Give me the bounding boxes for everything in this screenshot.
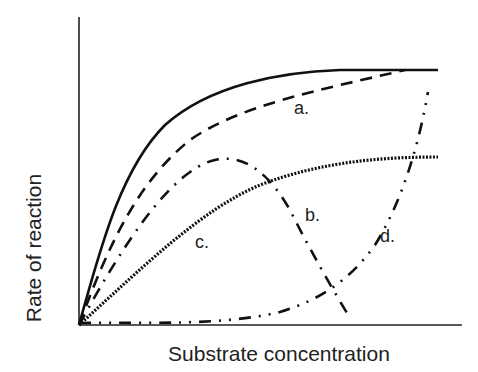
curve-label-d: d. <box>380 226 395 246</box>
y-axis-title: Rate of reaction <box>22 174 45 322</box>
curve-uninhibited <box>79 70 438 325</box>
curve-label-a: a. <box>294 98 309 118</box>
curve-label-b: b. <box>305 205 320 225</box>
chart: a. b. c. d. Substrate concentration Rate… <box>0 0 478 372</box>
curve-b <box>79 159 350 325</box>
curve-a <box>79 70 405 325</box>
x-axis-title: Substrate concentration <box>168 342 390 365</box>
curve-label-c: c. <box>195 232 209 252</box>
